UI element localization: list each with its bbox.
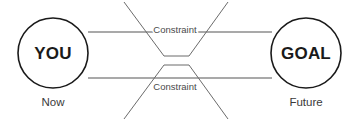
time-label-future: Future xyxy=(289,96,322,108)
diagram-canvas: Constraint Constraint Constraint Constra… xyxy=(0,0,349,122)
node-label-you: YOU xyxy=(34,44,71,63)
node-label-goal: GOAL xyxy=(281,44,331,63)
constraint-label-top: Constraint xyxy=(153,24,197,35)
constraint-funnel-bottom xyxy=(124,65,228,119)
constraint-diagram: Constraint Constraint Constraint Constra… xyxy=(0,0,349,122)
time-label-now: Now xyxy=(41,96,65,108)
constraint-label-bottom: Constraint xyxy=(153,81,197,92)
